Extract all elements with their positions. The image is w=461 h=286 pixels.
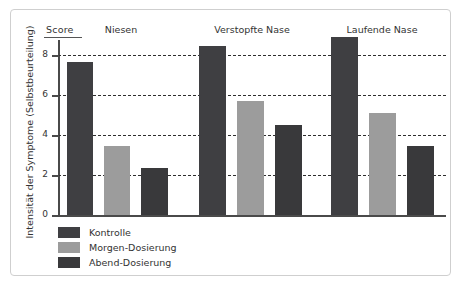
- tick-mark-2: [52, 175, 59, 177]
- bar-niesen-abend: [141, 168, 168, 215]
- tick-mark-0: [52, 215, 59, 217]
- gridline-6: [58, 95, 446, 96]
- tick-label-8-wrap: 8: [30, 50, 48, 60]
- tick-mark-8: [52, 55, 59, 57]
- tick-label-8: 8: [30, 50, 48, 59]
- tick-label-6: 6: [30, 90, 48, 99]
- tick-mark-6: [52, 95, 59, 97]
- plot-area: Intensität der Symptome (Selbstbeurteilu…: [0, 0, 461, 286]
- group-label-laufende-nase: Laufende Nase: [328, 24, 436, 35]
- bar-verstopfte-morgen: [237, 101, 264, 215]
- bar-laufende-morgen: [369, 113, 396, 215]
- bar-laufende-kontrolle: [331, 37, 358, 215]
- tick-mark-4: [52, 135, 59, 137]
- tick-label-0-wrap: 0: [30, 210, 48, 220]
- tick-label-6-wrap: 6: [30, 90, 48, 100]
- legend-label-kontrolle: Kontrolle: [89, 227, 131, 238]
- legend-swatch-abend-dosierung: [58, 257, 80, 268]
- score-header-underline: [44, 37, 82, 38]
- bar-verstopfte-abend: [275, 125, 302, 215]
- group-label-verstopfte-nase: Verstopfte Nase: [196, 24, 308, 35]
- tick-label-2: 2: [30, 170, 48, 179]
- gridline-8: [58, 55, 446, 56]
- bar-verstopfte-kontrolle: [199, 46, 226, 215]
- legend-label-abend-dosierung: Abend-Dosierung: [89, 257, 171, 268]
- legend-item-abend-dosierung: Abend-Dosierung: [58, 255, 177, 270]
- tick-label-4-wrap: 4: [30, 130, 48, 140]
- group-label-niesen: Niesen: [67, 24, 175, 35]
- legend: Kontrolle Morgen-Dosierung Abend-Dosieru…: [58, 225, 177, 270]
- y-axis-line: [58, 40, 60, 216]
- bar-niesen-kontrolle: [67, 62, 93, 215]
- legend-swatch-kontrolle: [58, 227, 80, 238]
- tick-label-0: 0: [30, 210, 48, 219]
- legend-label-morgen-dosierung: Morgen-Dosierung: [89, 242, 177, 253]
- legend-swatch-morgen-dosierung: [58, 242, 80, 253]
- tick-label-2-wrap: 2: [30, 170, 48, 180]
- legend-item-kontrolle: Kontrolle: [58, 225, 177, 240]
- x-axis-baseline: [58, 215, 446, 217]
- bar-niesen-morgen: [104, 146, 130, 215]
- legend-item-morgen-dosierung: Morgen-Dosierung: [58, 240, 177, 255]
- tick-label-4: 4: [30, 130, 48, 139]
- chart-screenshot: Intensität der Symptome (Selbstbeurteilu…: [0, 0, 461, 286]
- bar-laufende-abend: [407, 146, 434, 215]
